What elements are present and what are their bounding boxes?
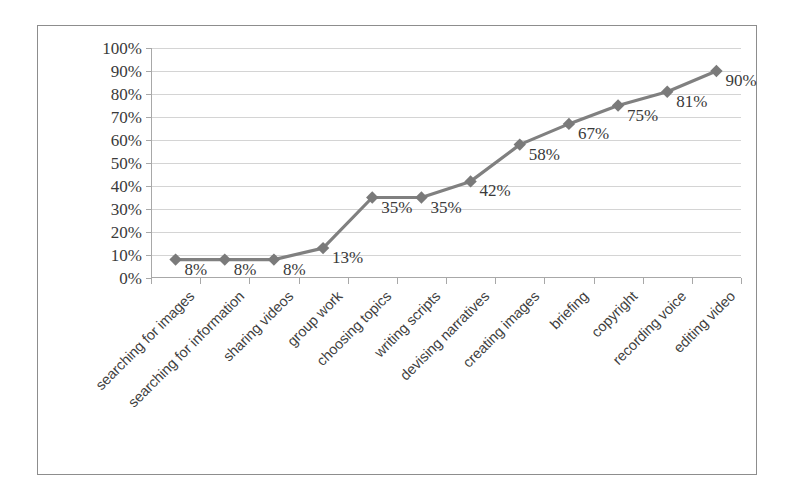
data-point-label: 81%	[676, 93, 707, 110]
data-point-label: 42%	[480, 182, 511, 199]
x-axis-tick	[151, 278, 152, 284]
data-point-marker	[710, 65, 722, 77]
x-axis-tick	[299, 278, 300, 284]
x-axis-tick	[348, 278, 349, 284]
x-axis-category-label: devising narratives	[397, 288, 492, 383]
series-line-chart	[151, 48, 741, 278]
data-point-label: 13%	[332, 249, 363, 266]
x-axis-tick	[397, 278, 398, 284]
data-point-label: 35%	[381, 199, 412, 216]
data-point-label: 8%	[185, 261, 208, 278]
series-markers-group	[169, 65, 722, 266]
x-axis-tick	[544, 278, 545, 284]
x-axis-tick	[495, 278, 496, 284]
y-axis-tick-label: 0%	[119, 270, 142, 287]
y-axis-tick-label: 50%	[111, 155, 142, 172]
x-axis-tick	[643, 278, 644, 284]
data-point-marker	[661, 86, 673, 98]
data-point-label: 8%	[283, 261, 306, 278]
data-point-marker	[415, 191, 427, 203]
y-axis-tick-label: 10%	[111, 247, 142, 264]
y-axis-tick-label: 20%	[111, 224, 142, 241]
y-axis-tick-label: 70%	[111, 109, 142, 126]
plot-area: 0%10%20%30%40%50%60%70%80%90%100% search…	[151, 48, 741, 278]
x-axis-tick	[249, 278, 250, 284]
y-axis-tick-label: 80%	[111, 86, 142, 103]
x-axis-tick	[594, 278, 595, 284]
data-point-label: 67%	[578, 125, 609, 142]
data-point-label: 35%	[430, 199, 461, 216]
x-axis-tick	[692, 278, 693, 284]
series-line	[176, 71, 717, 260]
data-point-label: 58%	[529, 146, 560, 163]
y-axis-tick-label: 90%	[111, 63, 142, 80]
data-point-label: 90%	[725, 72, 756, 89]
x-axis-tick	[741, 278, 742, 284]
data-point-marker	[563, 118, 575, 130]
y-axis-tick-label: 100%	[102, 40, 142, 57]
data-point-marker	[219, 253, 231, 265]
y-axis-tick-label: 60%	[111, 132, 142, 149]
data-point-marker	[169, 253, 181, 265]
chart-frame: 0%10%20%30%40%50%60%70%80%90%100% search…	[37, 25, 757, 475]
data-point-marker	[268, 253, 280, 265]
data-point-marker	[612, 99, 624, 111]
x-axis-category-label: briefing	[547, 288, 591, 332]
y-axis-tick-label: 40%	[111, 178, 142, 195]
y-axis-tick-label: 30%	[111, 201, 142, 218]
data-point-label: 8%	[234, 261, 257, 278]
data-point-label: 75%	[627, 107, 658, 124]
x-axis-tick	[446, 278, 447, 284]
x-axis-tick	[200, 278, 201, 284]
